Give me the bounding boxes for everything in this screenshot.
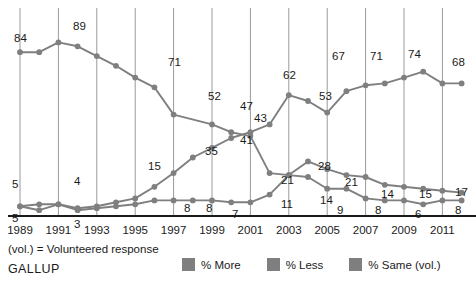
data-point bbox=[36, 49, 42, 55]
value-label: 4 bbox=[74, 175, 81, 187]
value-label: 74 bbox=[408, 48, 421, 60]
data-point bbox=[113, 63, 119, 69]
x-tick-1993: 1993 bbox=[84, 224, 110, 236]
data-point bbox=[36, 207, 42, 213]
data-point bbox=[267, 192, 273, 198]
data-point bbox=[152, 184, 158, 190]
data-point bbox=[440, 81, 446, 87]
value-label: 52 bbox=[208, 90, 221, 102]
value-label: 8 bbox=[206, 202, 212, 214]
series-lines-group bbox=[17, 40, 464, 214]
legend-item-same: % Same (vol.) bbox=[349, 258, 440, 271]
line-chart: 8489715247434162536771746815355421282114… bbox=[0, 0, 476, 240]
data-point bbox=[56, 201, 62, 207]
value-label: 14 bbox=[320, 194, 333, 206]
data-point bbox=[94, 205, 100, 211]
data-point bbox=[459, 198, 465, 204]
value-label: 11 bbox=[281, 198, 293, 210]
legend-swatch-icon bbox=[349, 258, 362, 271]
value-label: 71 bbox=[168, 56, 181, 68]
value-label: 3 bbox=[74, 218, 80, 230]
value-label: 28 bbox=[318, 160, 331, 172]
data-point bbox=[248, 199, 254, 205]
x-tick-1997: 1997 bbox=[161, 224, 187, 236]
legend-label-less: % Less bbox=[286, 259, 324, 271]
value-label: 15 bbox=[419, 188, 432, 200]
value-label: 62 bbox=[283, 69, 296, 81]
value-label: 41 bbox=[240, 134, 253, 146]
value-label: 84 bbox=[14, 32, 27, 44]
data-point bbox=[459, 81, 465, 87]
value-label: 71 bbox=[370, 50, 383, 62]
legend-item-more: % More bbox=[182, 258, 241, 271]
data-point bbox=[171, 170, 177, 176]
data-point bbox=[190, 155, 196, 161]
value-label: 68 bbox=[452, 56, 465, 68]
data-point bbox=[17, 49, 23, 55]
data-point bbox=[440, 198, 446, 204]
data-point bbox=[171, 112, 177, 118]
data-point bbox=[228, 135, 234, 141]
value-label: 14 bbox=[381, 188, 394, 200]
data-point bbox=[324, 186, 330, 192]
data-point bbox=[440, 188, 446, 194]
data-point bbox=[113, 203, 119, 209]
data-point bbox=[363, 196, 369, 202]
data-point bbox=[305, 174, 311, 180]
data-point bbox=[56, 40, 62, 46]
value-label: 8 bbox=[375, 204, 381, 216]
value-label: 6 bbox=[415, 208, 421, 220]
data-point bbox=[305, 159, 311, 165]
data-point bbox=[132, 201, 138, 207]
value-label: 53 bbox=[319, 90, 332, 102]
data-point bbox=[324, 110, 330, 116]
data-point bbox=[36, 201, 42, 207]
legend-label-same: % Same (vol.) bbox=[368, 259, 440, 271]
data-point bbox=[94, 53, 100, 59]
gallup-brand: GALLUP bbox=[8, 262, 60, 276]
x-tick-2001: 2001 bbox=[238, 224, 264, 236]
data-point bbox=[420, 201, 426, 207]
data-point bbox=[363, 174, 369, 180]
x-tick-2007: 2007 bbox=[353, 224, 379, 236]
data-point bbox=[382, 81, 388, 87]
data-labels-group: 8489715247434162536771746815355421282114… bbox=[12, 20, 468, 230]
value-label: 21 bbox=[345, 176, 358, 188]
series-line-2 bbox=[20, 175, 462, 210]
value-label: 15 bbox=[148, 160, 161, 172]
data-point bbox=[152, 84, 158, 90]
x-tick-2009: 2009 bbox=[391, 224, 417, 236]
data-point bbox=[171, 198, 177, 204]
data-point bbox=[228, 129, 234, 135]
x-tick-1991: 1991 bbox=[46, 224, 72, 236]
gridlines-group bbox=[20, 8, 442, 216]
legend-swatch-icon bbox=[182, 258, 195, 271]
data-point bbox=[132, 196, 138, 202]
value-label: 7 bbox=[232, 208, 238, 220]
chart-legend: % More % Less % Same (vol.) bbox=[182, 258, 441, 271]
data-point bbox=[344, 88, 350, 94]
data-point bbox=[305, 98, 311, 104]
x-tick-2011: 2011 bbox=[430, 224, 455, 236]
data-point bbox=[401, 198, 407, 204]
value-label: 67 bbox=[332, 50, 345, 62]
value-label: 5 bbox=[12, 212, 18, 224]
x-tick-1989: 1989 bbox=[7, 224, 33, 236]
value-label: 35 bbox=[205, 145, 218, 157]
data-point bbox=[401, 184, 407, 190]
value-label: 89 bbox=[73, 20, 86, 32]
legend-swatch-icon bbox=[267, 258, 280, 271]
legend-item-less: % Less bbox=[267, 258, 324, 271]
footnote-text: (vol.) = Volunteered response bbox=[8, 243, 159, 255]
value-label: 5 bbox=[12, 178, 18, 190]
data-point bbox=[401, 75, 407, 81]
x-tick-2005: 2005 bbox=[314, 224, 340, 236]
value-label: 43 bbox=[254, 112, 267, 124]
data-point bbox=[228, 199, 234, 205]
data-point bbox=[363, 82, 369, 88]
data-point bbox=[286, 92, 292, 98]
value-label: 9 bbox=[337, 204, 343, 216]
data-point bbox=[75, 43, 81, 49]
data-point bbox=[132, 75, 138, 81]
data-point bbox=[17, 203, 23, 209]
